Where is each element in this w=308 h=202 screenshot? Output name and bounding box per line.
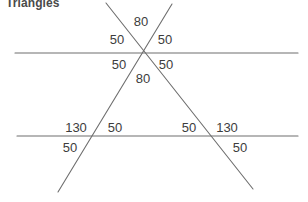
angle-apex-top: 80 — [134, 15, 148, 28]
angle-right-base-lower-right: 50 — [233, 141, 247, 154]
angle-left-base-upper-left: 130 — [65, 121, 87, 134]
angle-apex-lower-left: 50 — [112, 58, 126, 71]
angle-right-base-upper-right: 130 — [216, 121, 238, 134]
figure-lines — [15, 3, 298, 192]
angle-apex-upper-right: 50 — [158, 33, 172, 46]
angle-apex-upper-left: 50 — [110, 33, 124, 46]
figure-canvas — [0, 0, 308, 202]
angle-apex-lower-right: 50 — [159, 58, 173, 71]
left-to-right-diagonal — [106, 3, 253, 189]
geometry-figure: Triangles 80505050508013050505013050 — [0, 0, 308, 202]
angle-left-base-lower-left: 50 — [63, 141, 77, 154]
angle-apex-bottom: 80 — [136, 72, 150, 85]
angle-left-base-upper-right: 50 — [108, 121, 122, 134]
angle-right-base-upper-left: 50 — [182, 121, 196, 134]
